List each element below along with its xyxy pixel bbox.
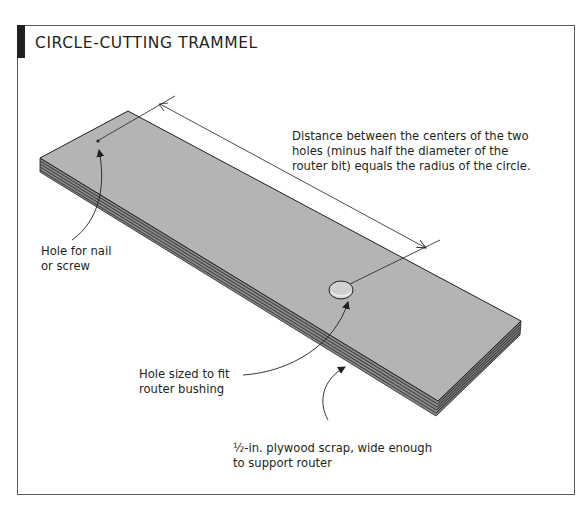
distance-callout: Distance between the centers of the two … (292, 129, 531, 174)
nail-hole-callout: Hole for nail or screw (41, 244, 111, 274)
router-hole-callout: Hole sized to fit router bushing (139, 367, 230, 397)
router-hole-icon (329, 281, 353, 299)
dimension-arrow-start-icon (159, 103, 168, 111)
plywood-leader (323, 367, 345, 420)
plywood-callout: ½-in. plywood scrap, wide enough to supp… (233, 441, 432, 471)
